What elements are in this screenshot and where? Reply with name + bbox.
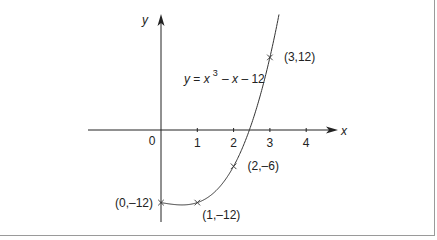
equation-part: x <box>203 72 211 86</box>
chart: 12340xy(0,–12)(1,–12)(2,–6)(3,12)y = x3 … <box>0 0 437 240</box>
data-point-label: (1,–12) <box>202 208 240 222</box>
data-point-label: (3,12) <box>284 50 315 64</box>
x-tick-label: 1 <box>194 136 201 150</box>
origin-label: 0 <box>149 134 156 148</box>
equation-part: – 12 <box>238 72 265 86</box>
equation-label: y = x3 – x – 12 <box>183 68 265 86</box>
data-point-label: (2,–6) <box>248 159 279 173</box>
data-point-marker <box>231 164 237 170</box>
data-point-label: (0,–12) <box>115 196 153 210</box>
equation-part: 3 <box>213 68 218 78</box>
x-tick-label: 3 <box>267 136 274 150</box>
x-tick-label: 4 <box>303 136 310 150</box>
curve-line <box>161 14 279 204</box>
x-tick-label: 2 <box>230 136 237 150</box>
equation-part: – <box>219 72 232 86</box>
y-axis-label: y <box>141 13 149 27</box>
data-point-marker <box>195 200 201 206</box>
equation-part: = <box>190 72 204 86</box>
x-axis-label: x <box>340 124 348 138</box>
